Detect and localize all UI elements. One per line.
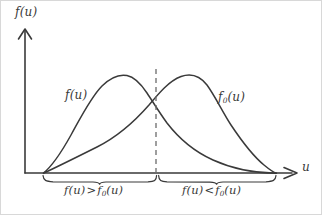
x-axis-label: u bbox=[302, 161, 310, 173]
x-axis bbox=[25, 168, 297, 179]
plot-svg bbox=[1, 1, 322, 215]
curve-f0-label-tail: (u) bbox=[227, 90, 245, 104]
left-region-rhs-tail: (u) bbox=[106, 183, 123, 197]
curve-f-label: f(u) bbox=[65, 89, 87, 101]
figure-canvas: f(u) u f(u) f0(u) f(u)>f0(u) f(u)<f0(u) bbox=[0, 0, 322, 215]
right-region-lhs: f(u) bbox=[182, 183, 203, 197]
right-region-rhs-tail: (u) bbox=[224, 183, 241, 197]
curve-f0-label: f0(u) bbox=[218, 91, 245, 105]
y-axis-label: f(u) bbox=[15, 6, 37, 18]
right-region-label: f(u)<f0(u) bbox=[182, 185, 241, 197]
y-axis bbox=[19, 29, 32, 173]
right-region-relation: < bbox=[203, 183, 215, 197]
left-region-label: f(u)>f0(u) bbox=[64, 185, 123, 197]
left-region-lhs: f(u) bbox=[64, 183, 85, 197]
left-region-relation: > bbox=[85, 183, 97, 197]
